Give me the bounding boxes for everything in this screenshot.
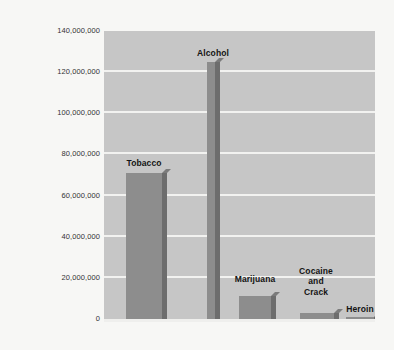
bar-top-face xyxy=(162,169,171,173)
bar-top-face xyxy=(271,292,280,296)
chart-screenshot: Americans Using the Drug at Least Once a… xyxy=(0,0,394,350)
bar-heroin[interactable] xyxy=(346,317,374,319)
y-axis-tick-labels: 140,000,000120,000,000100,000,00080,000,… xyxy=(32,0,100,350)
bar-label-alcohol: Alcohol xyxy=(176,48,250,59)
bar-alcohol[interactable] xyxy=(207,62,215,319)
y-axis-tick-label: 60,000,000 xyxy=(34,191,100,200)
bar-label-tobacco: Tobacco xyxy=(110,158,178,169)
y-axis-tick-label: 120,000,000 xyxy=(34,67,100,76)
bar-tobacco[interactable] xyxy=(126,173,162,319)
bar-side-face xyxy=(374,317,375,319)
bar-label-marijuana: Marijuana xyxy=(226,274,284,285)
plot-area: TobaccoAlcoholMarijuanaCocaine and Crack… xyxy=(104,31,375,322)
y-axis-tick-label: 140,000,000 xyxy=(34,26,100,35)
bar-side-face xyxy=(271,296,276,319)
bar-face xyxy=(126,173,162,319)
gridline xyxy=(104,152,375,154)
gridline xyxy=(104,70,375,72)
bar-face xyxy=(300,313,334,319)
y-axis-tick-label: 20,000,000 xyxy=(34,273,100,282)
bar-face xyxy=(207,62,215,319)
bar-label-heroin: Heroin xyxy=(334,304,375,315)
y-axis-tick-label: 80,000,000 xyxy=(34,149,100,158)
bar-cocaine-and-crack[interactable] xyxy=(300,313,334,319)
gridline xyxy=(104,111,375,113)
y-axis-tick-label: 0 xyxy=(34,314,100,323)
bar-top-face xyxy=(215,58,224,62)
y-axis-tick-label: 100,000,000 xyxy=(34,108,100,117)
bar-label-cocaine-and-crack: Cocaine and Crack xyxy=(286,266,346,298)
bar-side-face xyxy=(215,62,220,319)
bar-face xyxy=(346,317,374,319)
axis-baseline xyxy=(104,319,375,322)
bar-marijuana[interactable] xyxy=(239,296,271,319)
bar-side-face xyxy=(162,173,167,319)
bar-face xyxy=(239,296,271,319)
y-axis-tick-label: 40,000,000 xyxy=(34,232,100,241)
